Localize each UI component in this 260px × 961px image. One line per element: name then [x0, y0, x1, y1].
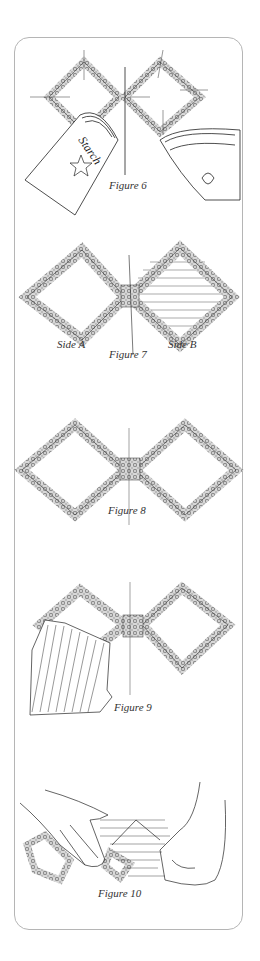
figure-8-caption: Figure 8	[108, 504, 146, 516]
figure-10-illustration	[0, 780, 260, 920]
side-b-label: Side B	[168, 338, 196, 350]
figure-10-caption: Figure 10	[98, 887, 141, 899]
figure-7-caption: Figure 7	[109, 348, 147, 360]
figure-10: Figure 10	[0, 780, 260, 920]
figure-8: Figure 8	[0, 410, 260, 530]
figure-6: Starch Figure 6	[0, 40, 260, 220]
figure-9: Figure 9	[0, 575, 260, 735]
side-a-label: Side A	[57, 338, 85, 350]
figure-7: Side A Figure 7 Side B	[0, 240, 260, 380]
figure-6-illustration: Starch	[0, 40, 260, 220]
figure-9-caption: Figure 9	[114, 701, 152, 713]
figure-6-caption: Figure 6	[109, 179, 147, 191]
